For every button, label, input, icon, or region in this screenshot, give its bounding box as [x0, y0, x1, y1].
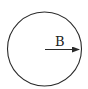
field-diagram: B	[0, 0, 88, 89]
field-vector-label: B	[55, 34, 65, 49]
